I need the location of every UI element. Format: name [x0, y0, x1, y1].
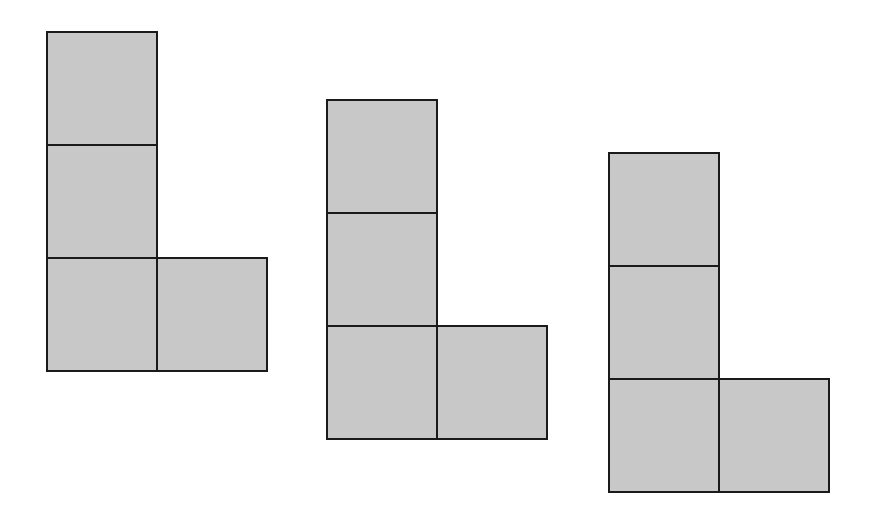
- square-cell: [326, 325, 438, 440]
- square-cell: [326, 99, 438, 214]
- square-cell: [46, 257, 158, 372]
- square-cell: [46, 31, 158, 146]
- square-cell: [46, 144, 158, 259]
- square-cell: [608, 265, 720, 380]
- square-cell: [608, 152, 720, 267]
- square-cell: [436, 325, 548, 440]
- square-cell: [608, 378, 720, 493]
- square-cell: [718, 378, 830, 493]
- square-cell: [156, 257, 268, 372]
- square-cell: [326, 212, 438, 327]
